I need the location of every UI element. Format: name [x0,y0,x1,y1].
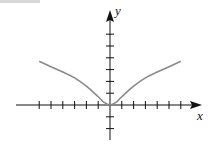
plot-area [0,0,217,154]
x-axis-label: x [197,108,203,124]
y-axis-label: y [115,3,121,19]
